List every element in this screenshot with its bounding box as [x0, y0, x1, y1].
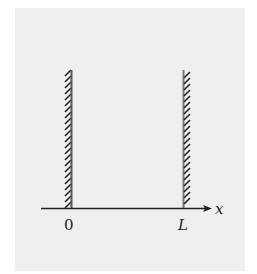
right-wall	[184, 70, 191, 208]
tick-label-L: L	[177, 216, 188, 234]
x-axis-label: x	[215, 200, 224, 218]
left-wall	[65, 70, 72, 208]
tick-label-zero: 0	[64, 216, 74, 234]
square-well-diagram: x 0 L	[0, 0, 257, 274]
right-wall-hatching	[184, 72, 190, 204]
left-wall-hatching	[65, 70, 71, 208]
